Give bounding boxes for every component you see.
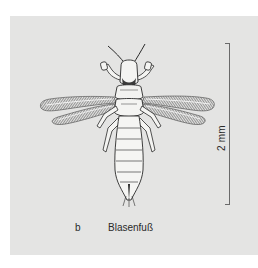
right-wing xyxy=(140,96,214,125)
scale-bar-bottom-tick xyxy=(225,204,230,205)
scale-bar-top-tick xyxy=(225,43,230,44)
figure-letter: b xyxy=(75,222,81,233)
left-wing xyxy=(40,96,118,124)
abdomen xyxy=(115,116,143,207)
figure-caption: Blasenfuß xyxy=(108,222,153,233)
thorax xyxy=(114,85,144,117)
scale-bar xyxy=(229,43,230,205)
scale-label: 2 mm xyxy=(216,125,227,151)
